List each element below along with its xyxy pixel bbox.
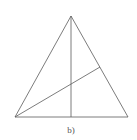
figure-label: b) (0, 124, 137, 136)
triangle-outline (15, 16, 128, 117)
cevian-from-bottom-left (15, 67, 100, 117)
triangle-diagram (0, 0, 137, 140)
